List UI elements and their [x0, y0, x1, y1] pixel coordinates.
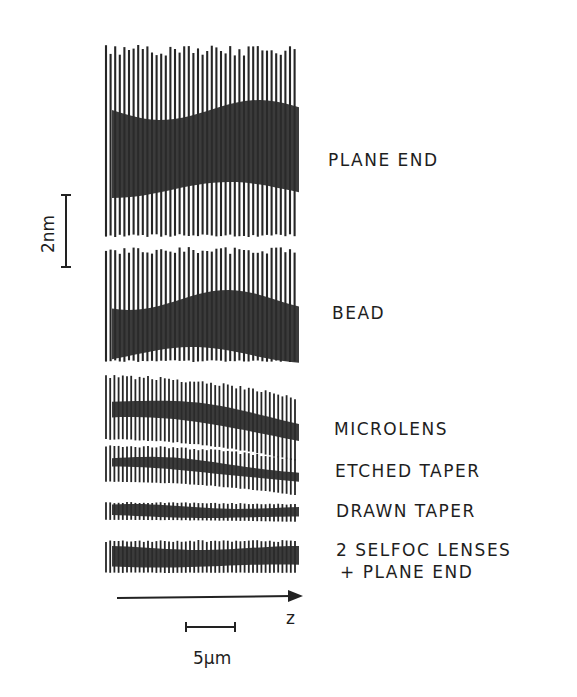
label-selfoc-lenses: 2 SELFOC LENSES [336, 540, 511, 561]
vertical-scale-label: 2nm [38, 215, 58, 253]
label-selfoc-plane-end: + PLANE END [340, 562, 473, 583]
label-bead: BEAD [332, 303, 385, 323]
trace-plane-end [106, 45, 299, 237]
label-etched-taper: ETCHED TAPER [335, 461, 481, 481]
figure-canvas [0, 0, 577, 697]
label-plane-end: PLANE END [328, 150, 439, 170]
horizontal-scale-bar [186, 622, 235, 632]
label-microlens: MICROLENS [334, 419, 448, 439]
label-drawn-taper: DRAWN TAPER [336, 501, 476, 521]
trace-2-selfoc-lenses [106, 540, 299, 573]
z-axis-label: z [286, 608, 295, 628]
vertical-scale-bar [61, 195, 71, 267]
trace-bead [106, 247, 299, 363]
trace-group [106, 45, 299, 573]
horizontal-scale-label: 5µm [193, 648, 231, 668]
z-axis-arrow [117, 590, 303, 602]
trace-drawn-taper [106, 502, 299, 522]
